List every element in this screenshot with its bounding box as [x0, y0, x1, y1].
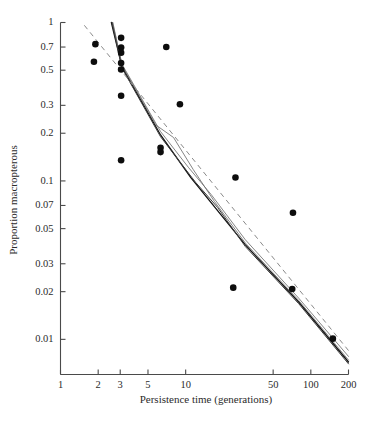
data-point-marker: [232, 174, 239, 181]
data-point-marker: [157, 149, 164, 156]
data-point-marker: [118, 35, 125, 42]
x-tick-label: 100: [303, 379, 319, 390]
x-tick-label: 200: [341, 379, 357, 390]
data-point-marker: [118, 66, 125, 73]
x-tick-label: 50: [268, 379, 279, 390]
x-tick-label: 1: [58, 379, 63, 390]
data-point-marker: [92, 41, 99, 48]
data-point-marker: [118, 92, 125, 99]
series-line-reference-dashed-line: [84, 25, 348, 350]
scatter-plot-svg: 10.70.50.30.20.10.070.050.030.020.01 123…: [0, 0, 372, 425]
y-tick-label: 0.03: [35, 258, 53, 269]
data-point-marker: [118, 60, 125, 67]
data-point-marker: [230, 284, 237, 291]
data-point-marker: [177, 101, 184, 108]
data-point-marker: [289, 286, 296, 293]
y-tick-label: 0.05: [35, 223, 53, 234]
y-tick-label: 0.02: [35, 286, 53, 297]
data-point-marker: [118, 49, 125, 56]
fitted-lines: [84, 23, 348, 364]
x-tick-label: 2: [96, 379, 101, 390]
series-line-fitted-regression: [111, 23, 348, 362]
data-point-marker: [290, 209, 297, 216]
y-tick-label: 0.2: [40, 127, 53, 138]
x-axis-title: Persistence time (generations): [140, 393, 273, 406]
data-points: [91, 35, 337, 342]
data-point-marker: [163, 44, 170, 51]
y-tick-label: 0.1: [40, 175, 53, 186]
x-axis-ticks: 12351050100200: [58, 370, 357, 390]
data-point-marker: [91, 58, 98, 65]
series-line-simulation-run-2: [113, 23, 349, 361]
x-tick-label: 10: [180, 379, 191, 390]
y-tick-label: 1: [48, 16, 53, 27]
y-tick-label: 0.3: [40, 99, 53, 110]
y-tick-label: 0.7: [40, 41, 53, 52]
y-axis-title: Proportion macropterous: [7, 145, 19, 255]
axis-frame: [61, 23, 349, 375]
figure-container: 10.70.50.30.20.10.070.050.030.020.01 123…: [0, 0, 372, 425]
y-tick-label: 0.5: [40, 64, 53, 75]
series-line-simulation-run-3: [112, 23, 348, 364]
data-point-marker: [118, 157, 125, 164]
x-tick-label: 3: [118, 379, 123, 390]
data-point-marker: [330, 335, 337, 342]
y-tick-label: 0.01: [35, 333, 53, 344]
x-tick-label: 5: [145, 379, 150, 390]
y-tick-label: 0.07: [35, 199, 53, 210]
